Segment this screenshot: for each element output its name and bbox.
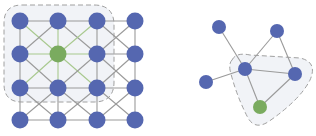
grid-node [127, 80, 144, 97]
free-node-left [199, 75, 213, 89]
free-node-top-left [212, 20, 226, 34]
grid-node [127, 112, 144, 129]
free-node-bottom-highlighted [253, 100, 267, 114]
free-node-center [238, 62, 252, 76]
grid-node-highlighted [50, 46, 67, 63]
grid-node [50, 13, 67, 30]
free-node-right [288, 67, 302, 81]
free-node-top-right [270, 24, 284, 38]
grid-node [12, 46, 29, 63]
grid-node [12, 13, 29, 30]
grid-node [127, 13, 144, 30]
grid-node [89, 46, 106, 63]
grid-node [89, 80, 106, 97]
free-graph [199, 20, 312, 125]
grid-node [127, 46, 144, 63]
graph-diagram [0, 0, 316, 136]
grid-node [89, 112, 106, 129]
grid-node [12, 112, 29, 129]
grid-graph [4, 5, 144, 129]
grid-node [50, 112, 67, 129]
grid-node [89, 13, 106, 30]
grid-node [12, 80, 29, 97]
grid-node [50, 80, 67, 97]
